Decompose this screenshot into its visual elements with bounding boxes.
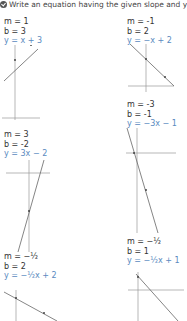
check-circle-icon	[0, 1, 7, 8]
graph-2	[128, 44, 176, 92]
intercept-label: b = 1	[127, 247, 180, 257]
intercept-label: b = 2	[4, 262, 57, 272]
graph-4	[126, 128, 176, 233]
slope-label: m = -1	[127, 17, 172, 27]
slope-label: m = −½	[4, 252, 57, 262]
problem-3: m = 3 b = -2 y = 3x − 2	[4, 130, 47, 159]
instruction-text: Write an equation having the given slope…	[9, 0, 187, 9]
graph-5	[2, 290, 57, 321]
problem-5: m = −½ b = 2 y = −½x + 2	[4, 252, 57, 281]
graph-1	[2, 45, 42, 120]
graph-3	[4, 160, 50, 252]
graph-6	[128, 272, 186, 321]
equation: y = −½x + 2	[4, 271, 57, 281]
slope-label: m = -3	[127, 100, 177, 110]
slope-label: m = 1	[4, 17, 42, 27]
instruction-header: Write an equation having the given slope…	[0, 0, 187, 10]
slope-label: m = −½	[127, 237, 180, 247]
problem-2: m = -1 b = 2 y = −x + 2	[127, 17, 172, 46]
problem-4: m = -3 b = -1 y = −3x − 1	[127, 100, 177, 129]
equation: y = −½x + 1	[127, 256, 180, 266]
problem-6: m = −½ b = 1 y = −½x + 1	[127, 237, 180, 266]
problem-1: m = 1 b = 3 y = x + 3	[4, 17, 42, 46]
intercept-label: b = 3	[4, 27, 42, 37]
slope-label: m = 3	[4, 130, 47, 140]
equation: y = 3x − 2	[4, 149, 47, 159]
intercept-label: b = 2	[127, 27, 172, 37]
intercept-label: b = -2	[4, 140, 47, 150]
intercept-label: b = -1	[127, 110, 177, 120]
